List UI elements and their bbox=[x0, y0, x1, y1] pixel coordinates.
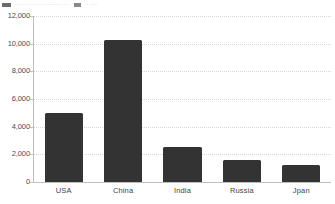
bar bbox=[223, 160, 261, 182]
x-axis-tick-label: USA bbox=[34, 186, 93, 195]
bar bbox=[45, 113, 83, 182]
bar-chart: ······ ······ ··· ········· ·· · ·· ····… bbox=[0, 0, 335, 204]
bar bbox=[163, 147, 201, 182]
legend-swatch-icon bbox=[2, 3, 11, 7]
gridline bbox=[34, 182, 331, 183]
chart-legend: ······ ······ ··· ········· ·· · ·· ···· bbox=[0, 0, 335, 7]
x-axis-tick-label: China bbox=[93, 186, 152, 195]
x-axis-tick-labels: USAChinaIndiaRussiaJpan bbox=[34, 186, 331, 200]
y-axis-tick-label: 12,000 bbox=[0, 12, 30, 20]
y-axis-tick-mark bbox=[30, 16, 33, 17]
y-axis-tick-mark bbox=[30, 99, 33, 100]
x-axis-tick-label: Jpan bbox=[272, 186, 331, 195]
y-axis-tick-label: 6,000 bbox=[0, 95, 30, 103]
x-axis-tick-label: India bbox=[153, 186, 212, 195]
y-axis-tick-mark bbox=[30, 44, 33, 45]
y-axis-tick-label: 2,000 bbox=[0, 150, 30, 158]
y-axis-tick-mark bbox=[30, 182, 33, 183]
legend-entry-1-label: ······ ······ ··· ········· ·· · bbox=[15, 2, 70, 7]
y-axis-tick-mark bbox=[30, 154, 33, 155]
bar bbox=[282, 165, 320, 182]
bar bbox=[104, 40, 142, 182]
x-axis-tick-label: Russia bbox=[212, 186, 271, 195]
y-axis-tick-label: 8,000 bbox=[0, 67, 30, 75]
y-axis-tick-label: 0 bbox=[0, 178, 30, 186]
legend-swatch-secondary-icon bbox=[74, 3, 81, 7]
y-axis-tick-label: 4,000 bbox=[0, 123, 30, 131]
y-axis-tick-mark bbox=[30, 127, 33, 128]
y-axis-tick-label: 10,000 bbox=[0, 40, 30, 48]
bars-layer bbox=[34, 16, 331, 182]
legend-entry-2-label: ·· ···· bbox=[85, 2, 97, 7]
y-axis-tick-mark bbox=[30, 71, 33, 72]
y-axis-tick-labels: 02,0004,0006,0008,00010,00012,000 bbox=[0, 16, 30, 182]
